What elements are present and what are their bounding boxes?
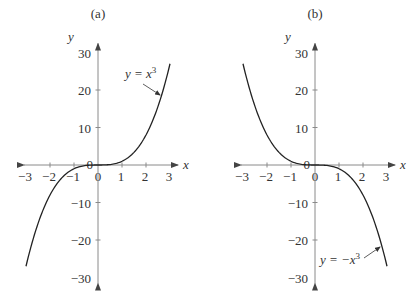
y-tick-label: 30: [295, 46, 308, 61]
y-tick-label: 30: [78, 46, 91, 61]
y-tick-label: 20: [295, 83, 308, 98]
x-tick-label: 1: [335, 169, 342, 184]
y-tick-label: 10: [295, 121, 308, 136]
x-tick-label: 3: [383, 169, 390, 184]
y-tick-label: 10: [78, 121, 91, 136]
panel-a-annotation-arrow: [143, 84, 160, 95]
panel-b: (b) x−3−2−10123 y−30−20−100102030 y = −x…: [235, 6, 406, 286]
y-tick-label: −20: [288, 233, 308, 248]
x-tick-label: −1: [66, 169, 80, 184]
x-tick-label: −3: [18, 169, 32, 184]
panel-a-title: (a): [91, 6, 105, 21]
x-tick-label: 1: [118, 169, 125, 184]
y-tick-label: −10: [71, 196, 91, 211]
x-tick-label: 2: [142, 169, 149, 184]
panel-b-y-axis: y−30−20−100102030: [283, 29, 318, 286]
panel-a-y-axis: y−30−20−100102030: [66, 29, 101, 286]
x-axis-label: x: [399, 157, 406, 172]
panel-b-annotation: y = −x3: [318, 251, 361, 267]
x-tick-label: 2: [359, 169, 366, 184]
panel-b-title: (b): [307, 6, 322, 21]
panel-a-x-axis: x−3−2−10123: [18, 157, 189, 184]
figure: (a) x−3−2−10123 y−30−20−100102030 y = x3…: [0, 0, 415, 295]
x-tick-label: −2: [259, 169, 273, 184]
y-tick-label: −30: [288, 271, 308, 286]
y-tick-label: −30: [71, 271, 91, 286]
y-axis-label: y: [66, 29, 74, 44]
x-tick-label: −2: [42, 169, 56, 184]
panel-a-annotation: y = x3: [123, 65, 157, 81]
x-tick-label: −3: [235, 169, 249, 184]
y-axis-label: y: [283, 29, 291, 44]
y-tick-label: −20: [71, 233, 91, 248]
y-tick-label: 20: [78, 83, 91, 98]
x-tick-label: 3: [166, 169, 173, 184]
panel-b-annotation-arrow: [364, 247, 380, 258]
x-axis-label: x: [182, 157, 189, 172]
panel-a: (a) x−3−2−10123 y−30−20−100102030 y = x3: [18, 6, 189, 286]
y-tick-label: −10: [288, 196, 308, 211]
panel-b-x-axis: x−3−2−10123: [235, 157, 406, 184]
x-tick-label: −1: [283, 169, 297, 184]
